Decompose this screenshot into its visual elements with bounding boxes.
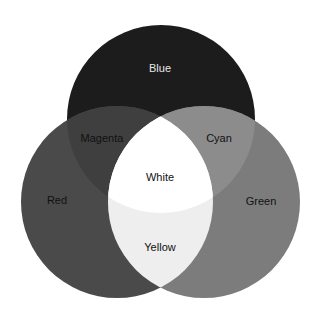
label-yellow: Yellow (144, 241, 175, 253)
label-blue: Blue (149, 62, 171, 74)
label-white: White (146, 171, 174, 183)
label-cyan: Cyan (206, 132, 232, 144)
label-red: Red (47, 194, 67, 206)
label-magenta: Magenta (81, 132, 125, 144)
venn-diagram: Blue Magenta Cyan White Red Green Yellow (0, 0, 315, 318)
label-green: Green (246, 195, 277, 207)
